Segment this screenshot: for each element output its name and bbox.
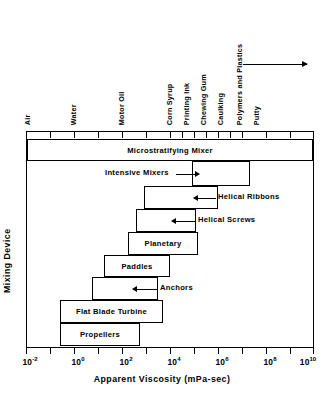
top-tick [206, 132, 207, 138]
device-bar-microstratifying-mixer: Microstratifying Mixer [27, 139, 313, 161]
x-tick-label: 108 [263, 356, 276, 367]
x-tick-mantissa: 10 [215, 357, 225, 367]
bottom-tick [194, 348, 195, 354]
x-tick-exponent: 0 [81, 356, 84, 362]
device-label-intensive-mixers: Intensive Mixers [105, 169, 169, 177]
device-bar-label: Flat Blade Turbine [76, 307, 147, 316]
device-bar-paddles: Paddles [104, 255, 170, 277]
bottom-tick [242, 348, 243, 354]
device-label-helical-screws: Helical Screws [198, 216, 255, 224]
device-bar-label: Microstratifying Mixer [127, 146, 213, 155]
bottom-tick [170, 348, 171, 354]
x-tick-exponent: 4 [177, 356, 180, 362]
x-tick-label: 102 [119, 356, 132, 367]
x-tick-mantissa: 10 [263, 357, 273, 367]
device-bar-label: Propellers [80, 330, 120, 339]
top-tick [146, 132, 147, 138]
bottom-tick [313, 348, 314, 354]
device-bar-label: Paddles [121, 262, 152, 271]
material-label-printing-ink: Printing Ink [182, 83, 189, 126]
x-tick-label: 1010 [300, 356, 316, 367]
top-tick [266, 132, 267, 138]
top-tick [242, 132, 243, 138]
x-tick-exponent: 8 [273, 356, 276, 362]
top-tick [290, 132, 291, 138]
x-tick-mantissa: 10 [167, 357, 177, 367]
bottom-tick [290, 348, 291, 354]
bottom-tick [26, 348, 27, 354]
x-tick-exponent: 10 [310, 356, 317, 362]
bottom-tick [122, 348, 123, 354]
bottom-tick [74, 348, 75, 354]
top-tick [182, 132, 183, 138]
x-tick-mantissa: 10 [71, 357, 81, 367]
bottom-tick [50, 348, 51, 354]
x-tick-label: 106 [215, 356, 228, 367]
material-label-corn-syrup: Corn Syrup [165, 84, 172, 126]
x-tick-mantissa: 10 [119, 357, 129, 367]
top-tick [170, 132, 171, 138]
device-bar-planetary: Planetary [128, 232, 198, 255]
leader-line-anchors [133, 289, 158, 290]
leader-line-helical-ribbons [194, 198, 216, 199]
x-tick-label: 10-2 [22, 356, 37, 367]
material-label-caulking: Caulking [216, 93, 223, 125]
top-tick [122, 132, 123, 138]
material-label-motor-oil: Motor Oil [117, 91, 124, 125]
material-label-water: Water [69, 104, 76, 125]
bottom-tick [98, 348, 99, 354]
open-ended-range-arrow-icon [243, 64, 307, 65]
bottom-tick [218, 348, 219, 354]
leader-line-intensive-mixers [176, 174, 199, 175]
x-tick-exponent: 2 [129, 356, 132, 362]
material-label-air: Air [23, 114, 30, 125]
x-tick-label: 100 [71, 356, 84, 367]
x-tick-label: 104 [167, 356, 180, 367]
top-tick [230, 132, 231, 138]
material-label-putty: Putty [252, 106, 259, 125]
material-label-polymers-and-plastics: Polymers and Plastics [235, 44, 242, 126]
x-tick-mantissa: 10 [22, 357, 32, 367]
material-label-chewing-gum: Chewing Gum [199, 74, 206, 125]
top-tick [98, 132, 99, 138]
device-bar-flat-blade-turbine: Flat Blade Turbine [60, 300, 163, 323]
device-bar-intensive-mixers [192, 161, 250, 186]
x-axis-title: Apparent Viscosity (mPa-sec) [0, 374, 324, 384]
x-tick-exponent: 6 [225, 356, 228, 362]
y-axis-title: Mixing Device [2, 228, 12, 293]
device-label-anchors: Anchors [160, 284, 193, 292]
device-label-helical-ribbons: Helical Ribbons [218, 193, 279, 201]
bottom-tick [146, 348, 147, 354]
x-tick-mantissa: 10 [300, 357, 310, 367]
device-bar-label: Planetary [145, 239, 182, 248]
bottom-tick [266, 348, 267, 354]
top-tick [194, 132, 195, 138]
leader-line-helical-screws [172, 221, 196, 222]
top-tick [218, 132, 219, 138]
top-tick [50, 132, 51, 138]
device-bar-propellers: Propellers [60, 323, 140, 346]
x-tick-exponent: -2 [32, 356, 37, 362]
viscosity-mixing-device-chart: Mixing Device Air Water Motor Oil Corn S… [0, 0, 324, 398]
top-tick [74, 132, 75, 138]
